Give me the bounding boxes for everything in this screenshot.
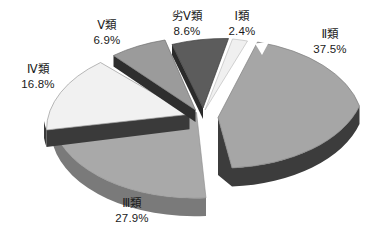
pie-label-iv-name: Ⅳ類 [6, 62, 70, 76]
pie-label-iii-value: 27.9% [98, 211, 166, 225]
pie-label-ii-value: 37.5% [298, 42, 362, 56]
pie-label-iii: Ⅲ類 27.9% [98, 196, 166, 225]
pie-slice-ii [218, 42, 360, 187]
pie-label-iii-name: Ⅲ類 [98, 196, 166, 210]
pie-label-i-value: 2.4% [218, 24, 266, 38]
pie-label-i: Ⅰ類 2.4% [218, 9, 266, 38]
pie-chart: Ⅴ類 6.9% 劣Ⅴ類 8.6% Ⅰ類 2.4% Ⅱ類 37.5% Ⅳ類 16.… [0, 0, 378, 242]
pie-label-v-value: 6.9% [78, 33, 136, 47]
pie-label-lie-v-name: 劣Ⅴ類 [156, 9, 218, 23]
pie-label-lie-v: 劣Ⅴ類 8.6% [156, 9, 218, 38]
pie-label-i-name: Ⅰ類 [218, 9, 266, 23]
pie-label-v: Ⅴ類 6.9% [78, 18, 136, 47]
pie-label-ii: Ⅱ類 37.5% [298, 27, 362, 56]
pie-slice-iv-side [44, 121, 47, 147]
pie-label-ii-name: Ⅱ類 [298, 27, 362, 41]
pie-label-iv-value: 16.8% [6, 77, 70, 91]
pie-label-lie-v-value: 8.6% [156, 24, 218, 38]
pie-label-v-name: Ⅴ類 [78, 18, 136, 32]
pie-label-iv: Ⅳ類 16.8% [6, 62, 70, 91]
